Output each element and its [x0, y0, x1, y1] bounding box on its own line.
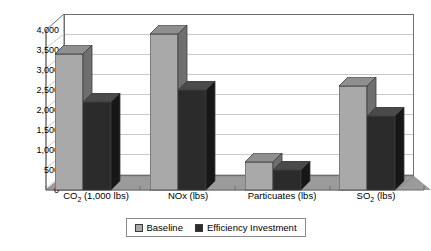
bar-3d-shape — [273, 161, 312, 192]
bar-3d-shape — [367, 107, 406, 192]
bars-layer — [0, 0, 431, 200]
x-tick-label-so2: SO2 (lbs) — [330, 190, 422, 205]
bar-chart: 4,000 3,500 3,000 2,500 2,000 1,500 1,00… — [0, 0, 431, 251]
bar-baseline — [150, 34, 178, 190]
legend-item-efficiency-investment: Efficiency Investment — [195, 222, 297, 233]
x-label-main: Particuates — [248, 190, 296, 201]
x-axis-labels: CO2 (1,000 lbs) NOx (lbs) Particuates (l… — [0, 190, 431, 212]
x-label-main: SO — [357, 190, 371, 201]
x-label-main: CO — [63, 190, 77, 201]
x-label-tail: (lbs) — [187, 190, 208, 201]
legend-label-baseline: Baseline — [146, 222, 182, 233]
bar-efficiency-investment — [273, 170, 301, 190]
chart-legend: Baseline Efficiency Investment — [125, 218, 305, 237]
bar-baseline — [339, 86, 367, 190]
x-label-main: NOx — [168, 190, 187, 201]
legend-swatch-efficiency-investment — [195, 224, 203, 232]
x-label-tail: (lbs) — [374, 190, 395, 201]
x-tick-label-co2: CO2 (1,000 lbs) — [38, 190, 154, 205]
x-label-tail: (1,000 lbs) — [81, 190, 129, 201]
bar-baseline — [55, 54, 83, 190]
plot-area: 4,000 3,500 3,000 2,500 2,000 1,500 1,00… — [0, 0, 431, 200]
legend-label-efficiency-investment: Efficiency Investment — [207, 222, 297, 233]
x-label-tail: (lbs) — [295, 190, 316, 201]
x-tick-label-particuates: Particuates (lbs) — [222, 190, 342, 201]
legend-swatch-baseline — [134, 224, 142, 232]
bar-efficiency-investment — [367, 116, 395, 190]
bar-baseline — [245, 162, 273, 190]
legend-item-baseline: Baseline — [134, 222, 182, 233]
bar-efficiency-investment — [83, 102, 111, 190]
bar-3d-shape — [178, 81, 217, 192]
bar-3d-shape — [83, 93, 122, 192]
bar-efficiency-investment — [178, 90, 206, 190]
